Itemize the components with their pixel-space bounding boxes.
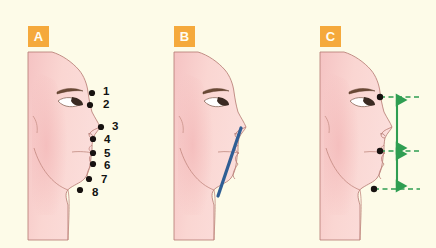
landmark-overlay-a <box>0 0 145 248</box>
landmark-dot-7 <box>86 176 92 182</box>
panel-c: C <box>292 0 436 248</box>
panel-a: A 1 2 3 4 5 6 7 8 <box>0 0 145 248</box>
landmark-dot-1 <box>89 90 95 96</box>
figure-root: A 1 2 3 4 5 6 7 8 <box>0 0 436 248</box>
face-profile-illustration-b <box>146 0 291 248</box>
landmark-dot-5 <box>90 150 96 156</box>
panel-badge-b: B <box>174 26 195 47</box>
landmark-label-3: 3 <box>112 121 118 133</box>
landmark-dot-6 <box>90 161 96 167</box>
landmark-dot-3 <box>98 124 104 130</box>
panel-b: B <box>146 0 291 248</box>
lower-landmark-dot <box>371 186 377 192</box>
landmark-label-4: 4 <box>104 134 110 146</box>
landmark-dot-2 <box>87 102 93 108</box>
landmark-label-6: 6 <box>104 160 110 172</box>
face-profile-illustration-c <box>292 0 436 248</box>
landmark-label-2: 2 <box>103 99 109 111</box>
landmark-label-5: 5 <box>104 148 110 160</box>
upper-landmark-dot <box>377 94 383 100</box>
landmark-dot-4 <box>90 136 96 142</box>
landmark-label-8: 8 <box>92 187 98 199</box>
landmark-dot-8 <box>77 187 83 193</box>
middle-landmark-dot <box>377 148 383 154</box>
panel-badge-c: C <box>320 26 341 47</box>
landmark-label-7: 7 <box>101 174 107 186</box>
panel-badge-a: A <box>28 26 49 47</box>
landmark-label-1: 1 <box>103 86 109 98</box>
